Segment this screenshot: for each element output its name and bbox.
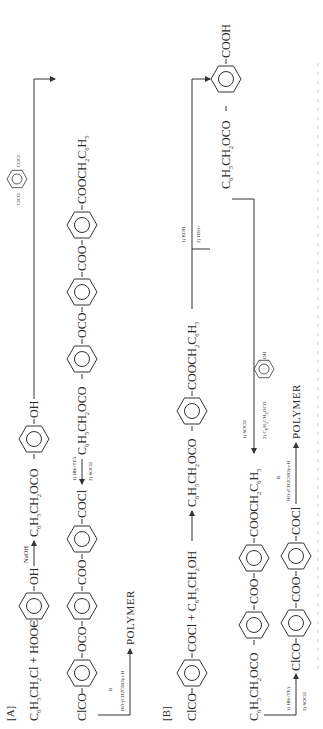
a-row1-reactant: C6H5CH2Cl + HOOC — [27, 620, 42, 721]
svg-text:ClCO: ClCO — [289, 643, 303, 671]
svg-text:COCl: COCl — [75, 489, 89, 518]
svg-text:HO-(CH2CHO)n-H: HO-(CH2CHO)n-H — [120, 671, 125, 711]
part-b-acid: C6H5CH2OCO COOH — [211, 24, 241, 189]
svg-text:COO: COO — [289, 576, 303, 602]
a-row1-product: C6H5CH2OCO — [27, 468, 42, 537]
part-a-label: [A] — [4, 706, 16, 721]
part-b-row2: C6H5CH2OCO COO COOCH2C6H5 1) SOCl2 2) C6… — [232, 199, 274, 721]
svg-text:OCO: OCO — [75, 312, 89, 338]
benzene-ring-icon — [19, 593, 49, 619]
svg-text:1) HBr/TFA: 1) HBr/TFA — [72, 456, 77, 481]
svg-text:1) HBr/TFA: 1) HBr/TFA — [286, 686, 291, 711]
svg-text:2) SOCl2: 2) SOCl2 — [302, 691, 307, 711]
svg-text:C6H5CH2OCO: C6H5CH2OCO — [75, 386, 90, 455]
part-a-row2: ClCO OCO COO COCl 1) HBr/TFA 2) SOCl2 C6… — [67, 136, 97, 721]
svg-text:COOH: COOH — [219, 24, 233, 58]
polymer-label-b: POLYMER — [290, 384, 302, 439]
polymer-label: POLYMER — [124, 590, 136, 645]
svg-text:1) KOH: 1) KOH — [181, 226, 186, 243]
a-side-reagent: ClCO COCl — [7, 155, 27, 205]
svg-text:COO: COO — [75, 245, 89, 271]
part-b-row3: 1) HBr/TFA 2) SOCl2 ClCO COO COCl R HO-(… — [264, 384, 311, 715]
svg-text:2) C6H5CH2OCO: 2) C6H5CH2OCO — [262, 401, 269, 439]
a-row1-product-oh: OH — [27, 400, 41, 418]
svg-text:COOCH2C6H5: COOCH2C6H5 — [75, 136, 90, 204]
svg-text:1) SOCl2: 1) SOCl2 — [242, 419, 247, 439]
svg-text:OCO: OCO — [75, 626, 89, 652]
svg-text:ClCO: ClCO — [16, 193, 21, 205]
reaction-scheme: [A] C6H5CH2Cl + HOOC OH NaOH C6H5CH2OCO … — [0, 0, 323, 729]
part-b-label: [B] — [160, 706, 172, 721]
svg-text:C6H5CH2OCO: C6H5CH2OCO — [247, 652, 262, 721]
svg-text:COCl + C6H5CH2OH: COCl + C6H5CH2OH — [185, 550, 200, 652]
svg-text:R: R — [108, 687, 113, 691]
svg-text:COO: COO — [75, 559, 89, 585]
svg-text:COOCH2C6H5: COOCH2C6H5 — [185, 322, 200, 390]
svg-text:COO: COO — [247, 578, 261, 604]
svg-text:2) SOCl2: 2) SOCl2 — [88, 461, 93, 481]
svg-text:COOCH2C6H5: COOCH2C6H5 — [247, 469, 262, 537]
svg-text:C6H5CH2OCO: C6H5CH2OCO — [185, 438, 200, 507]
part-a-polymer: R HO-(CH2CHO)n-H POLYMER — [98, 590, 136, 715]
a-reagent-naoh: NaOH — [22, 546, 29, 563]
part-a-row1: C6H5CH2Cl + HOOC OH NaOH C6H5CH2OCO OH — [19, 79, 55, 721]
part-b-row1: ClCO COCl + C6H5CH2OH C6H5CH2OCO COOCH2C… — [177, 79, 210, 721]
svg-text:COCl: COCl — [289, 506, 303, 535]
a-row1-oh: OH — [27, 567, 41, 585]
svg-text:R: R — [276, 475, 281, 479]
svg-text:C6H5CH2OCO: C6H5CH2OCO — [219, 120, 234, 189]
svg-text:HO-(CH2CHO)n-H: HO-(CH2CHO)n-H — [286, 461, 291, 501]
svg-text:OH: OH — [262, 351, 267, 359]
svg-text:ClCO: ClCO — [75, 693, 89, 721]
svg-text:2) H3O+: 2) H3O+ — [196, 225, 201, 243]
svg-text:COCl: COCl — [16, 155, 21, 167]
svg-text:ClCO: ClCO — [185, 693, 199, 721]
